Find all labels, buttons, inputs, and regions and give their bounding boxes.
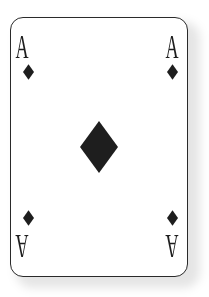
corner-rank-bottom-right: A xyxy=(165,232,178,260)
playing-card-ace-of-diamonds[interactable]: A A A A xyxy=(10,17,188,277)
diamond-icon xyxy=(167,210,178,226)
diamond-icon xyxy=(23,210,34,226)
corner-rank-top-right: A xyxy=(165,33,178,61)
card-stage: A A A A xyxy=(0,0,209,297)
corner-rank-bottom-left: A xyxy=(15,232,28,260)
diamond-icon xyxy=(167,64,178,80)
diamond-icon xyxy=(23,64,34,80)
diamond-icon xyxy=(80,121,118,173)
corner-rank-top-left: A xyxy=(15,33,28,61)
